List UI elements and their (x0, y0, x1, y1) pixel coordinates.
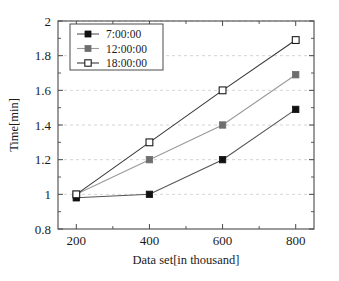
y-tick-label: 1.8 (35, 48, 51, 63)
y-tick-label: 0.8 (35, 222, 51, 237)
y-tick-label: 1.6 (35, 83, 52, 98)
x-tick-label: 200 (67, 233, 87, 248)
y-tick-label: 1.2 (35, 152, 51, 167)
data-point-marker (292, 37, 299, 44)
line-chart: 0.811.21.41.61.82 200400600800 Data set[… (0, 0, 339, 281)
y-axis-title: Time[min] (7, 98, 21, 152)
data-point-marker (73, 191, 80, 198)
data-point-marker (146, 156, 152, 162)
x-tick-label: 800 (286, 233, 306, 248)
legend: 7:00:0012:00:0018:00:00 (70, 24, 163, 70)
y-axis-tick-labels: 0.811.21.41.61.82 (35, 14, 52, 237)
legend-marker-sample (85, 60, 91, 66)
data-point-marker (219, 122, 225, 128)
data-point-marker (219, 156, 225, 162)
x-axis-tick-labels: 200400600800 (67, 233, 306, 248)
data-point-marker (293, 72, 299, 78)
data-point-marker (146, 139, 153, 146)
data-point-marker (219, 87, 226, 94)
y-tick-label: 1.4 (35, 118, 52, 133)
data-point-marker (146, 191, 152, 197)
legend-label: 12:00:00 (106, 43, 147, 55)
x-tick-label: 600 (213, 233, 233, 248)
x-axis-title: Data set[in thousand] (133, 253, 240, 267)
data-point-marker (293, 106, 299, 112)
legend-items: 7:00:0012:00:0018:00:00 (77, 28, 147, 69)
legend-marker-sample (85, 31, 91, 37)
chart-figure: 0.811.21.41.61.82 200400600800 Data set[… (0, 0, 339, 281)
y-tick-label: 1 (45, 187, 52, 202)
legend-label: 7:00:00 (106, 28, 141, 40)
legend-marker-sample (85, 46, 91, 52)
y-tick-label: 2 (45, 14, 52, 29)
x-tick-label: 400 (140, 233, 160, 248)
legend-label: 18:00:00 (106, 57, 147, 69)
